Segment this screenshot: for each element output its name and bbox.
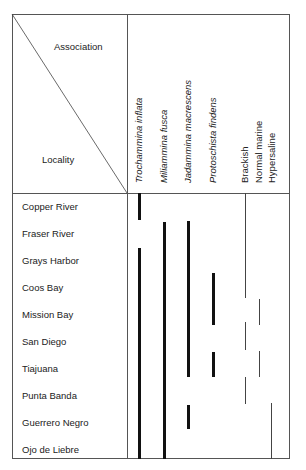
range-bar bbox=[138, 193, 141, 220]
locality-row: Fraser River bbox=[22, 228, 74, 239]
column-header-miliammina: Miliammina fusca bbox=[158, 110, 169, 183]
range-line bbox=[271, 403, 272, 459]
range-line bbox=[245, 193, 246, 298]
range-bar bbox=[187, 405, 190, 429]
range-bar bbox=[212, 352, 215, 377]
column-header-normal-marine: Normal marine bbox=[253, 121, 264, 183]
locality-row: Punta Banda bbox=[22, 390, 77, 401]
association-label: Association bbox=[54, 41, 103, 52]
range-line bbox=[245, 377, 246, 404]
locality-row: Copper River bbox=[22, 201, 78, 212]
range-bar bbox=[138, 248, 141, 459]
range-line bbox=[259, 351, 260, 377]
locality-row: Ojo de Liebre bbox=[22, 444, 79, 455]
range-bar bbox=[212, 273, 215, 325]
column-header-brackish: Brackish bbox=[239, 147, 250, 183]
column-header-hypersaline: Hypersaline bbox=[266, 133, 277, 183]
locality-row: Coos Bay bbox=[22, 282, 63, 293]
locality-row: Mission Bay bbox=[22, 309, 73, 320]
column-header-jadammina: Jadammina macrescens bbox=[182, 80, 193, 183]
column-header-trochammina: Trochammina inflata bbox=[133, 98, 144, 183]
column-header-protoschista: Protoschista findens bbox=[207, 97, 218, 183]
range-bar bbox=[163, 222, 166, 459]
locality-label: Locality bbox=[42, 154, 74, 165]
range-line bbox=[245, 322, 246, 350]
locality-row: Tiajuana bbox=[22, 363, 58, 374]
locality-row: San Diego bbox=[22, 336, 66, 347]
range-bar bbox=[187, 221, 190, 377]
range-line bbox=[259, 299, 260, 325]
locality-row: Grays Harbor bbox=[22, 255, 79, 266]
locality-row: Guerrero Negro bbox=[22, 417, 89, 428]
